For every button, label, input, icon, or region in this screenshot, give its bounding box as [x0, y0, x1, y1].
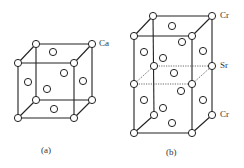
atom-label-cr-top: Cr — [220, 11, 229, 20]
unit-cell-b — [130, 12, 215, 136]
unit-cell-a — [14, 40, 95, 121]
crystal-diagrams — [0, 0, 244, 168]
caption-a: (a) — [41, 146, 51, 155]
atom-label-sr: Sr — [220, 61, 228, 70]
atom-label-cr-bottom: Cr — [220, 110, 229, 119]
caption-b: (b) — [166, 148, 177, 157]
atom-label-ca: Ca — [99, 39, 109, 48]
